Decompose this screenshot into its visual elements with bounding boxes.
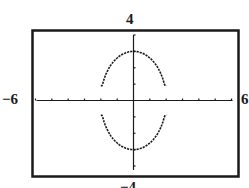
ymax-label: 4: [126, 12, 134, 27]
xmax-label: 6: [241, 92, 249, 107]
graph-canvas: [0, 0, 249, 188]
ymin-label: −4: [120, 180, 136, 188]
xmin-label: −6: [2, 92, 18, 107]
viewing-window-frame: [33, 31, 239, 177]
